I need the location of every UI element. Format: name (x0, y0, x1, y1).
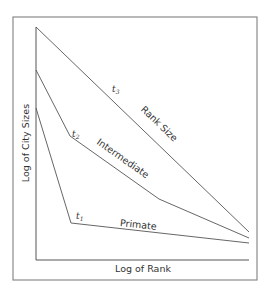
t1-label: t1 (76, 211, 83, 222)
primate-label: Primate (120, 217, 158, 232)
t2-label: t2 (72, 129, 80, 140)
chart-frame (13, 17, 257, 280)
city-size-chart: t3 t2 t1 Rank Size Intermediate Primate … (0, 0, 268, 293)
x-axis-label: Log of Rank (115, 263, 171, 274)
y-axis-label: Log of City Sizes (20, 104, 31, 182)
series-rank-size (36, 27, 249, 232)
rank-size-label: Rank Size (139, 103, 180, 143)
t3-label: t3 (112, 84, 120, 95)
